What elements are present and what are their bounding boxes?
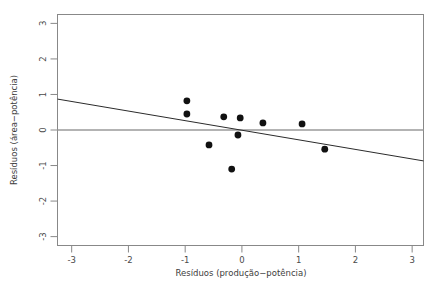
- x-tick-label: 3: [409, 255, 414, 265]
- x-tick-label: 2: [353, 255, 358, 265]
- data-point: [206, 142, 213, 149]
- figure-background: [0, 0, 442, 293]
- y-tick-label: -2: [38, 197, 48, 205]
- residual-plot-figure: -3-2-10123 -3-2-10123 Resíduos (produção…: [0, 0, 442, 293]
- y-tick-label: 0: [38, 127, 48, 132]
- y-axis-title: Resíduos (área−potência): [9, 75, 19, 185]
- data-point: [183, 111, 190, 118]
- data-point: [321, 146, 328, 153]
- x-axis-title: Resíduos (produção−potência): [176, 268, 307, 278]
- x-tick-label: 0: [239, 255, 244, 265]
- y-tick-label: -3: [38, 232, 48, 240]
- data-point: [183, 97, 190, 104]
- x-tick-label: -2: [124, 255, 132, 265]
- y-tick-label: 2: [38, 56, 48, 61]
- plot-canvas: -3-2-10123 -3-2-10123 Resíduos (produção…: [0, 0, 442, 293]
- data-point: [228, 166, 235, 173]
- data-point: [220, 113, 227, 120]
- data-point: [299, 121, 306, 128]
- data-point: [235, 132, 242, 139]
- y-tick-label: -1: [38, 161, 48, 169]
- x-tick-label: -1: [181, 255, 189, 265]
- y-tick-label: 3: [38, 21, 48, 26]
- y-tick-label: 1: [38, 92, 48, 97]
- x-tick-label: 1: [296, 255, 301, 265]
- data-point: [260, 119, 267, 126]
- x-tick-label: -3: [67, 255, 75, 265]
- data-point: [237, 115, 244, 122]
